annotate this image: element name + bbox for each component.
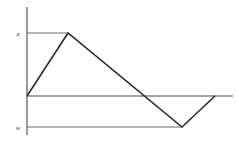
plot-background [0, 0, 239, 146]
figure-container: z w [0, 0, 239, 146]
upper-axis-label: z [16, 30, 20, 38]
plot-svg: z w [0, 0, 239, 146]
lower-axis-label: w [16, 124, 21, 132]
